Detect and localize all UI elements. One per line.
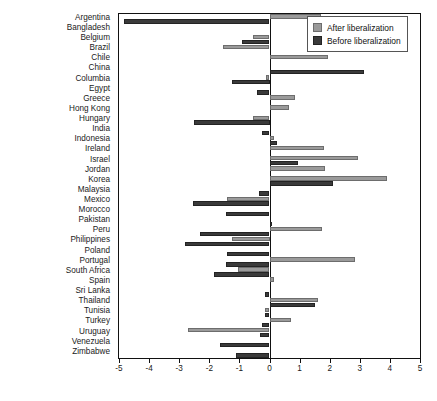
bar-before [236, 353, 269, 357]
bar-after [270, 166, 326, 170]
axis-tick-label: 4 [388, 364, 393, 373]
axis-tick-label: 2 [327, 364, 332, 373]
axis-tick [179, 359, 180, 363]
category-label: Uruguay [0, 328, 114, 336]
bar-before [262, 131, 270, 135]
bar-after [253, 35, 270, 39]
bar-before [185, 242, 269, 246]
bar-after [265, 308, 270, 312]
axis-tick-label: 5 [418, 364, 423, 373]
category-label: Portugal [0, 257, 114, 265]
category-label: Peru [0, 226, 114, 234]
bar-after [223, 45, 270, 49]
bar-after [270, 156, 359, 160]
axis-tick [390, 359, 391, 363]
bar-after [270, 227, 323, 231]
bar-after [232, 237, 270, 241]
bar-before [270, 303, 315, 307]
category-label: Hong Kong [0, 105, 114, 113]
bar-after [270, 176, 387, 180]
bar-after [270, 105, 290, 109]
category-label: Korea [0, 176, 114, 184]
bar-before [265, 313, 270, 317]
category-label: Sri Lanka [0, 287, 114, 295]
value-axis: -5-4-3-2-1012345 [118, 359, 421, 389]
category-label: Columbia [0, 75, 114, 83]
axis-tick-label: -2 [206, 364, 213, 373]
bar-before [226, 212, 270, 216]
category-label: Poland [0, 247, 114, 255]
bar-before [257, 90, 269, 94]
bar-after [238, 267, 270, 271]
axis-tick [420, 359, 421, 363]
axis-tick-label: -5 [115, 364, 122, 373]
category-label: Zimbabwe [0, 348, 114, 356]
bar-after [270, 257, 356, 261]
bar-before [226, 262, 270, 266]
bar-before [242, 40, 269, 44]
bar-after [266, 75, 269, 79]
bar-before [262, 323, 270, 327]
legend-swatch-after-icon [313, 23, 322, 32]
category-label: Egypt [0, 85, 114, 93]
legend-item-before: Before liberalization [313, 34, 401, 47]
category-label: Chile [0, 54, 114, 62]
category-label: Brazil [0, 44, 114, 52]
category-label: Turkey [0, 317, 114, 325]
axis-tick [300, 359, 301, 363]
axis-tick [209, 359, 210, 363]
axis-tick-label: -4 [145, 364, 152, 373]
bar-before [259, 191, 270, 195]
bar-before [193, 201, 270, 205]
category-label: Thailand [0, 297, 114, 305]
bar-after [270, 146, 324, 150]
axis-tick-label: -3 [176, 364, 183, 373]
bar-before [124, 19, 270, 23]
bar-before [270, 222, 272, 226]
legend-label-after: After liberalization [327, 23, 394, 33]
bar-before [270, 141, 278, 145]
axis-tick-label: 3 [358, 364, 363, 373]
category-label: Venezuela [0, 338, 114, 346]
axis-tick-label: 1 [297, 364, 302, 373]
bar-after [270, 298, 318, 302]
category-axis-labels: ArgentinaBangladeshBelgiumBrazilChileChi… [0, 13, 114, 359]
axis-tick [330, 359, 331, 363]
category-label: Greece [0, 95, 114, 103]
category-label: Indonesia [0, 135, 114, 143]
category-label: China [0, 64, 114, 72]
category-label: Jordan [0, 166, 114, 174]
bar-before [220, 343, 270, 347]
axis-tick [360, 359, 361, 363]
bar-after [270, 95, 296, 99]
bar-before [200, 232, 269, 236]
bar-before [265, 292, 270, 296]
axis-tick [270, 359, 271, 363]
category-label: Belgium [0, 34, 114, 42]
bar-after [270, 318, 291, 322]
legend-swatch-before-icon [313, 36, 322, 45]
category-label: South Africa [0, 267, 114, 275]
axis-tick [239, 359, 240, 363]
axis-tick-label: 0 [267, 364, 272, 373]
axis-tick [119, 359, 120, 363]
bar-after [270, 136, 275, 140]
bar-before [270, 70, 365, 74]
bar-after [227, 197, 269, 201]
legend-item-after: After liberalization [313, 21, 401, 34]
category-label: Spain [0, 277, 114, 285]
category-label: Tunisia [0, 307, 114, 315]
bar-before [270, 181, 333, 185]
category-label: Israel [0, 156, 114, 164]
bar-after [270, 55, 329, 59]
axis-tick [149, 359, 150, 363]
category-label: Malaysia [0, 186, 114, 194]
category-label: India [0, 125, 114, 133]
category-label: Ireland [0, 145, 114, 153]
chart-legend: After liberalization Before liberalizati… [307, 16, 408, 52]
bar-before [260, 333, 269, 337]
bar-after [188, 328, 269, 332]
category-label: Philippines [0, 236, 114, 244]
bar-before [232, 80, 270, 84]
bar-after [253, 116, 270, 120]
